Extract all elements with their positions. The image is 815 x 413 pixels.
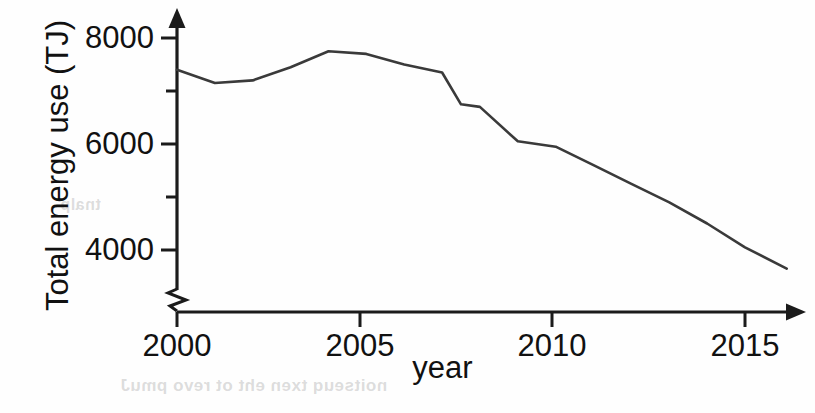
x-axis-title: year (0, 352, 815, 383)
y-axis-break-icon (168, 289, 186, 311)
x-axis-arrow-icon (786, 304, 806, 321)
y-axis-title: Total energy use (TJ) (42, 0, 73, 341)
data-series-line (177, 51, 787, 268)
chart-figure: noitseuq txen eht ot revo pmuJ tnalp 800… (0, 0, 815, 413)
y-axis-arrow-icon (169, 8, 186, 28)
x-axis-title-text: year (412, 350, 472, 385)
